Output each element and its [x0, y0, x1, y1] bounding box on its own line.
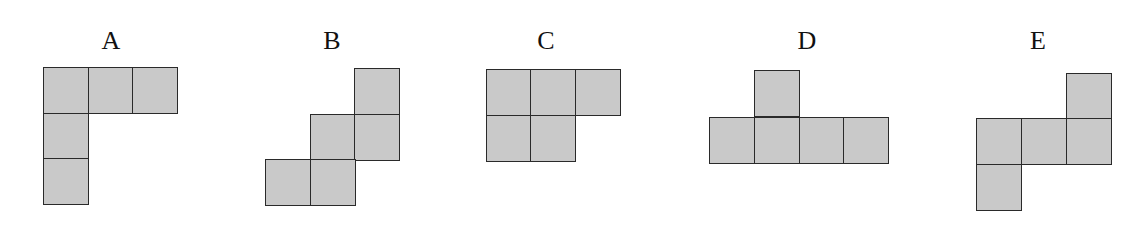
square: [354, 68, 400, 115]
square: [1066, 73, 1112, 120]
square: [43, 158, 89, 205]
square: [530, 69, 576, 116]
square: [43, 67, 89, 114]
square: [976, 164, 1022, 211]
square: [88, 67, 134, 114]
square: [310, 114, 356, 161]
square: [1066, 118, 1112, 165]
label-a: A: [91, 28, 131, 54]
square: [799, 117, 845, 164]
square: [486, 69, 532, 116]
square: [976, 118, 1022, 165]
square: [530, 115, 576, 162]
square: [1021, 118, 1067, 165]
square: [754, 117, 800, 164]
square: [265, 159, 311, 206]
square: [575, 69, 621, 116]
square: [354, 114, 400, 161]
square: [132, 67, 178, 114]
square: [843, 117, 889, 164]
square: [310, 159, 356, 206]
label-e: E: [1018, 28, 1058, 54]
label-d: D: [787, 28, 827, 54]
label-b: B: [312, 28, 352, 54]
square: [486, 115, 532, 162]
square: [43, 113, 89, 160]
square: [754, 70, 800, 117]
square: [709, 117, 755, 164]
label-c: C: [526, 28, 566, 54]
